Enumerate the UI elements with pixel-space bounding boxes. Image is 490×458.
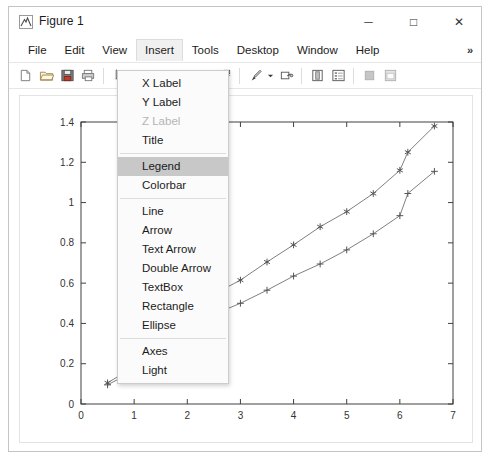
insert-menu-item-y-label[interactable]: Y Label bbox=[118, 93, 228, 112]
menu-file[interactable]: File bbox=[19, 39, 56, 61]
x-tick-label: 4 bbox=[291, 410, 297, 421]
menu-help[interactable]: Help bbox=[347, 39, 389, 61]
minimize-button[interactable]: ─ bbox=[346, 7, 391, 37]
insert-menu-item-textbox[interactable]: TextBox bbox=[118, 278, 228, 297]
insert-menu-item-arrow[interactable]: Arrow bbox=[118, 221, 228, 240]
insert-menu-item-double-arrow[interactable]: Double Arrow bbox=[118, 259, 228, 278]
x-tick-label: 7 bbox=[450, 410, 456, 421]
menu-overflow-icon[interactable]: » bbox=[467, 44, 473, 56]
y-tick-label: 0 bbox=[68, 399, 74, 410]
menu-desktop[interactable]: Desktop bbox=[228, 39, 288, 61]
save-figure-icon[interactable] bbox=[57, 66, 77, 86]
plot-area: 0123456700.20.40.60.811.21.4 bbox=[20, 96, 472, 442]
menu-tools[interactable]: Tools bbox=[183, 39, 228, 61]
insert-menu-item-ellipse[interactable]: Ellipse bbox=[118, 316, 228, 335]
hide-plot-tools-icon[interactable] bbox=[359, 66, 379, 86]
window-title: Figure 1 bbox=[39, 14, 84, 28]
insert-menu-item-x-label[interactable]: X Label bbox=[118, 74, 228, 93]
y-tick-label: 1.2 bbox=[60, 157, 74, 168]
insert-menu-item-title[interactable]: Title bbox=[118, 131, 228, 150]
toolbar-separator-4 bbox=[353, 68, 354, 84]
insert-dropdown-menu[interactable]: X LabelY LabelZ LabelTitleLegendColorbar… bbox=[117, 70, 229, 384]
x-tick-label: 5 bbox=[344, 410, 350, 421]
insert-menu-item-colorbar[interactable]: Colorbar bbox=[118, 176, 228, 195]
link-plot-icon[interactable] bbox=[276, 66, 296, 86]
y-tick-label: 1.4 bbox=[60, 117, 74, 128]
x-tick-label: 1 bbox=[131, 410, 137, 421]
figure-canvas[interactable]: 0123456700.20.40.60.811.21.4 bbox=[19, 95, 473, 443]
x-tick-label: 6 bbox=[397, 410, 403, 421]
toolbar-separator-1 bbox=[103, 68, 104, 84]
menu-insert[interactable]: Insert bbox=[136, 39, 183, 61]
window-controls: ─ □ ✕ bbox=[346, 7, 481, 37]
insert-menu-separator bbox=[120, 153, 226, 154]
figure-toolbar bbox=[9, 63, 481, 89]
figure-window: Figure 1 ─ □ ✕ File Edit View Insert Too… bbox=[8, 6, 482, 452]
menu-window[interactable]: Window bbox=[288, 39, 347, 61]
insert-menu-item-axes[interactable]: Axes bbox=[118, 342, 228, 361]
colorbar-icon[interactable] bbox=[307, 66, 327, 86]
y-tick-label: 1 bbox=[68, 197, 74, 208]
x-tick-label: 3 bbox=[238, 410, 244, 421]
y-tick-label: 0.6 bbox=[60, 278, 74, 289]
legend-icon[interactable] bbox=[328, 66, 348, 86]
new-figure-icon[interactable] bbox=[15, 66, 35, 86]
insert-menu-separator bbox=[120, 338, 226, 339]
brush-dropdown-caret-icon[interactable] bbox=[266, 66, 275, 86]
insert-menu-separator bbox=[120, 198, 226, 199]
menu-bar: File Edit View Insert Tools Desktop Wind… bbox=[9, 38, 481, 63]
title-bar: Figure 1 ─ □ ✕ bbox=[9, 7, 481, 38]
insert-menu-item-z-label: Z Label bbox=[118, 112, 228, 131]
x-tick-label: 0 bbox=[78, 410, 84, 421]
close-button[interactable]: ✕ bbox=[436, 7, 481, 37]
insert-menu-item-text-arrow[interactable]: Text Arrow bbox=[118, 240, 228, 259]
y-tick-label: 0.8 bbox=[60, 237, 74, 248]
insert-menu-item-line[interactable]: Line bbox=[118, 202, 228, 221]
maximize-button[interactable]: □ bbox=[391, 7, 436, 37]
y-tick-label: 0.2 bbox=[60, 358, 74, 369]
menu-edit[interactable]: Edit bbox=[56, 39, 94, 61]
print-figure-icon[interactable] bbox=[78, 66, 98, 86]
insert-menu-item-light[interactable]: Light bbox=[118, 361, 228, 380]
y-tick-label: 0.4 bbox=[60, 318, 74, 329]
insert-menu-item-rectangle[interactable]: Rectangle bbox=[118, 297, 228, 316]
show-plot-tools-icon[interactable] bbox=[380, 66, 400, 86]
brush-data-icon[interactable] bbox=[245, 66, 265, 86]
matlab-figure-icon bbox=[19, 15, 33, 29]
x-tick-label: 2 bbox=[185, 410, 191, 421]
toolbar-separator-3 bbox=[301, 68, 302, 84]
open-file-icon[interactable] bbox=[36, 66, 56, 86]
menu-view[interactable]: View bbox=[93, 39, 136, 61]
toolbar-separator-2 bbox=[239, 68, 240, 84]
insert-menu-item-legend[interactable]: Legend bbox=[118, 157, 228, 176]
